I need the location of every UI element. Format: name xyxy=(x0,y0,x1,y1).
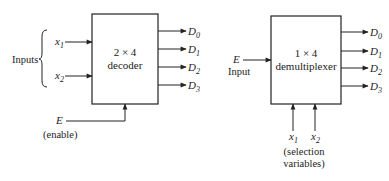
demultiplexer-select-x1-label: x1 xyxy=(288,130,298,145)
inputs-brace xyxy=(39,30,47,87)
demultiplexer-select-x2-label: x2 xyxy=(310,130,320,145)
decoder-enable-symbol: E xyxy=(55,114,63,126)
demultiplexer-input-symbol: E xyxy=(232,53,240,65)
demultiplexer-output-d2-label: D2 xyxy=(369,62,382,77)
demultiplexer-outputs: D0 D1 D2 D3 xyxy=(341,26,382,95)
decoder-title-line1: 2 × 4 xyxy=(114,46,137,58)
decoder-output-d0-label: D0 xyxy=(187,25,200,40)
decoder-block: 2 × 4 decoder Inputs x1 x2 E (enable) D0… xyxy=(12,14,200,141)
decoder-output-d3-label: D3 xyxy=(187,79,200,94)
decoder-enable-arrow xyxy=(66,104,125,121)
decoder-outputs: D0 D1 D2 D3 xyxy=(158,25,200,94)
decoder-demux-diagram: 2 × 4 decoder Inputs x1 x2 E (enable) D0… xyxy=(0,0,389,181)
decoder-input-x1-label: x1 xyxy=(54,35,64,50)
decoder-title-line2: decoder xyxy=(108,59,143,71)
demultiplexer-output-d1-label: D1 xyxy=(369,45,382,60)
demultiplexer-output-d3-label: D3 xyxy=(369,80,382,95)
demultiplexer-title-line1: 1 × 4 xyxy=(295,47,318,59)
decoder-enable-label: (enable) xyxy=(43,129,78,141)
demultiplexer-input-label: Input xyxy=(228,66,250,77)
demultiplexer-select-label-line2: variables) xyxy=(283,158,325,170)
demultiplexer-block: 1 × 4 demultiplexer E Input x1 x2 (selec… xyxy=(228,16,382,170)
demultiplexer-select-label-line1: (selection xyxy=(284,146,326,158)
decoder-output-d2-label: D2 xyxy=(187,61,200,76)
decoder-output-d1-label: D1 xyxy=(187,43,200,58)
demultiplexer-title-line2: demultiplexer xyxy=(275,60,336,72)
demultiplexer-output-d0-label: D0 xyxy=(369,26,382,41)
decoder-input-x2-label: x2 xyxy=(54,69,64,84)
inputs-label: Inputs xyxy=(12,54,38,65)
